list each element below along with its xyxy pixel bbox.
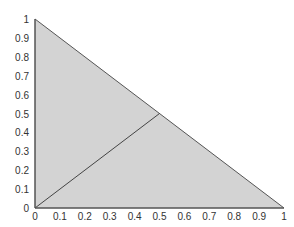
x-tick-label: 0.5 xyxy=(153,211,167,222)
plot-area xyxy=(35,19,284,208)
y-tick-label: 0.2 xyxy=(15,165,29,176)
y-tick-label: 0.3 xyxy=(15,146,29,157)
y-tick-label: 0.7 xyxy=(15,71,29,82)
x-tick-label: 0.8 xyxy=(227,211,241,222)
y-tick-label: 0.4 xyxy=(15,127,29,138)
y-tick-label: 0.8 xyxy=(15,52,29,63)
y-tick-label: 0.9 xyxy=(15,33,29,44)
y-tick-label: 0.6 xyxy=(15,90,29,101)
x-tick-label: 0.6 xyxy=(177,211,191,222)
y-axis-ticks: 00.10.20.30.40.50.60.70.80.91 xyxy=(15,14,29,214)
chart: 00.10.20.30.40.50.60.70.80.91 00.10.20.3… xyxy=(0,0,294,227)
x-tick-label: 0.2 xyxy=(78,211,92,222)
y-tick-label: 0 xyxy=(23,203,29,214)
x-tick-label: 0.9 xyxy=(252,211,266,222)
x-axis-ticks: 00.10.20.30.40.50.60.70.80.91 xyxy=(32,211,287,222)
y-tick-label: 0.1 xyxy=(15,184,29,195)
x-tick-label: 1 xyxy=(281,211,287,222)
y-tick-label: 1 xyxy=(23,14,29,25)
x-tick-label: 0.4 xyxy=(128,211,142,222)
x-tick-label: 0.7 xyxy=(202,211,216,222)
x-tick-label: 0.3 xyxy=(103,211,117,222)
x-tick-label: 0 xyxy=(32,211,38,222)
y-tick-label: 0.5 xyxy=(15,109,29,120)
x-tick-label: 0.1 xyxy=(53,211,67,222)
